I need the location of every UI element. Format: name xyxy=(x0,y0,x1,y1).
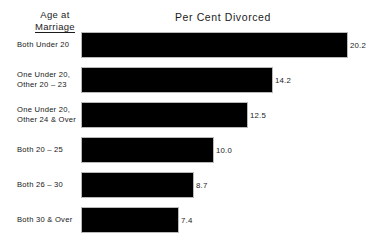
bar-value-label: 14.2 xyxy=(275,76,291,85)
bar xyxy=(82,103,247,127)
bar-category-label: Both 26 – 30 xyxy=(17,180,81,190)
bar-category-label: Both Under 20 xyxy=(17,40,81,50)
bar-value-label: 12.5 xyxy=(250,111,266,120)
bar-value-label: 7.4 xyxy=(181,216,192,225)
bar xyxy=(82,33,347,57)
bar-row: Both 26 – 30 8.7 xyxy=(0,173,385,197)
chart-figure: Age at Marriage Per Cent Divorced Both U… xyxy=(0,0,385,245)
bar-value-label: 10.0 xyxy=(216,146,232,155)
bar-value-label: 8.7 xyxy=(196,181,207,190)
bar-value-label: 20.2 xyxy=(350,41,366,50)
bar-row: One Under 20, Other 24 & Over 12.5 xyxy=(0,103,385,127)
bar-category-label: Both 30 & Over xyxy=(17,215,81,225)
bar xyxy=(82,138,213,162)
bar-row: Both 20 – 25 10.0 xyxy=(0,138,385,162)
bar-row: One Under 20, Other 20 – 23 14.2 xyxy=(0,68,385,92)
bar-plot-area: Both Under 20 20.2 One Under 20, Other 2… xyxy=(0,0,385,245)
bar-row: Both Under 20 20.2 xyxy=(0,33,385,57)
bar xyxy=(82,68,272,92)
bar-category-label: Both 20 – 25 xyxy=(17,145,81,155)
bar-row: Both 30 & Over 7.4 xyxy=(0,208,385,232)
bar-category-label: One Under 20, Other 20 – 23 xyxy=(17,70,81,89)
bar xyxy=(82,208,178,232)
bar xyxy=(82,173,193,197)
bar-category-label: One Under 20, Other 24 & Over xyxy=(17,105,81,124)
